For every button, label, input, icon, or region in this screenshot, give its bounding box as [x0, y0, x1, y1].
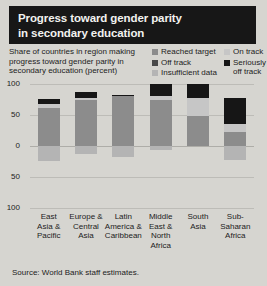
- bar-segment: [112, 95, 134, 97]
- y-axis-tick-label: 100: [0, 79, 20, 88]
- legend-column-left: Reached target Off track Insufficient da…: [152, 47, 224, 79]
- chart-title-banner: Progress toward gender parity in seconda…: [9, 6, 256, 44]
- x-axis-tick-label-line: Asia: [67, 231, 104, 241]
- x-axis-tick-label-line: Asia &: [30, 222, 67, 232]
- x-axis-tick-label: Sub-SaharanAfrica: [217, 212, 254, 241]
- legend-label-reached-target: Reached target: [161, 47, 216, 57]
- chart-source-note: Source: World Bank staff estimates.: [12, 268, 139, 277]
- x-axis-tick-label: Europe &CentralAsia: [67, 212, 104, 241]
- x-axis-tick-label: EastAsia &Pacific: [30, 212, 67, 241]
- bar-segment: [187, 116, 209, 146]
- bar-segment: [38, 104, 60, 108]
- x-axis-tick-label-line: Central: [67, 222, 104, 232]
- bar-segment: [38, 108, 60, 146]
- bar-segment: [150, 146, 172, 150]
- legend-item-reached-target: Reached target: [152, 47, 224, 57]
- page-title-line-2: in secondary education: [18, 26, 256, 41]
- bar-segment: [38, 99, 60, 105]
- x-axis-tick-label-line: Africa: [142, 241, 179, 251]
- legend-swatch-off-track: [152, 60, 158, 66]
- legend-label-insufficient-data: Insufficient data: [161, 68, 217, 78]
- x-axis-tick-label: LatinAmerica &Caribbean: [105, 212, 142, 241]
- x-axis-tick-label-line: Asia: [179, 222, 216, 232]
- legend-item-off-track: Off track: [152, 58, 224, 68]
- legend-label-off-track: Off track: [161, 58, 191, 68]
- bar-column: [187, 84, 209, 208]
- y-axis-tick-label: 50: [0, 110, 20, 119]
- x-axis-tick-label-line: Pacific: [30, 231, 67, 241]
- x-axis-tick-label-line: East &: [142, 222, 179, 232]
- chart-meta-row: Share of countries in region making prog…: [9, 47, 259, 77]
- x-axis-tick-label-line: Africa: [217, 231, 254, 241]
- x-axis-tick-label-line: Saharan: [217, 222, 254, 232]
- y-axis-tick-label: 100: [0, 203, 20, 212]
- bar-segment: [75, 98, 97, 100]
- x-axis-tick-label-line: Europe &: [67, 212, 104, 222]
- bar-segment: [38, 146, 60, 161]
- bar-segment: [112, 96, 134, 146]
- legend-label-on-track: On track: [233, 47, 263, 57]
- legend-swatch-insufficient-data: [152, 70, 158, 76]
- chart-figure: Progress toward gender parity in seconda…: [0, 0, 267, 286]
- bar-segment: [187, 84, 209, 98]
- bar-segment: [224, 146, 246, 160]
- legend-label-seriously-off-track: Seriously off track: [233, 58, 267, 77]
- legend-item-insufficient-data: Insufficient data: [152, 68, 224, 78]
- x-axis-tick-label-line: America &: [105, 222, 142, 232]
- bar-segment: [224, 124, 246, 132]
- x-axis-tick-label-line: East: [30, 212, 67, 222]
- bar-segment: [112, 146, 134, 157]
- legend-item-seriously-off-track: Seriously off track: [224, 58, 267, 77]
- legend-swatch-on-track: [224, 49, 230, 55]
- x-axis-tick-label-line: South: [179, 212, 216, 222]
- bar-segment: [224, 132, 246, 146]
- bar-segment: [187, 98, 209, 117]
- chart-subtitle: Share of countries in region making prog…: [9, 47, 149, 76]
- chart-plot-area: 10050050100 EastAsia &PacificEurope &Cen…: [30, 84, 254, 208]
- x-axis-tick-label: SouthAsia: [179, 212, 216, 231]
- x-axis-tick-label-line: Sub-: [217, 212, 254, 222]
- bar-segment: [75, 100, 97, 146]
- y-axis-tick-label: 0: [0, 141, 20, 150]
- bar-segment: [75, 92, 97, 98]
- x-axis-tick-label-line: Latin: [105, 212, 142, 222]
- chart-bars: [30, 84, 254, 208]
- x-axis-tick-label-line: Caribbean: [105, 231, 142, 241]
- bar-column: [112, 84, 134, 208]
- gridline-100-4: [30, 208, 254, 209]
- bar-segment: [224, 98, 246, 124]
- legend-swatch-reached-target: [152, 49, 158, 55]
- bar-column: [150, 84, 172, 208]
- bar-segment: [150, 96, 172, 100]
- legend-swatch-seriously-off-track: [224, 60, 230, 66]
- bar-segment: [75, 146, 97, 154]
- x-axis-tick-label-line: North: [142, 231, 179, 241]
- x-axis-tick-label: MiddleEast &NorthAfrica: [142, 212, 179, 250]
- page-title-line-1: Progress toward gender parity: [18, 11, 256, 26]
- bar-segment: [150, 100, 172, 146]
- y-axis-tick-label: 50: [0, 172, 20, 181]
- bar-column: [75, 84, 97, 208]
- legend-item-on-track: On track: [224, 47, 267, 57]
- legend-column-right: On track Seriously off track: [224, 47, 267, 78]
- x-axis-tick-label-line: Middle: [142, 212, 179, 222]
- bar-column: [38, 84, 60, 208]
- bar-column: [224, 84, 246, 208]
- bar-segment: [150, 84, 172, 96]
